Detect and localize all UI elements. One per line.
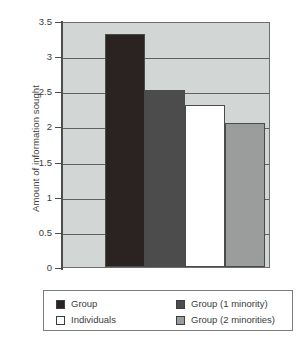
y-axis-tick-mark [55, 92, 62, 93]
y-axis-tick-mark [55, 127, 62, 128]
legend-item: Group [56, 297, 97, 311]
chart-legend: GroupIndividualsGroup (1 minority)Group … [43, 290, 293, 331]
y-axis-tick-label: 1.5 [39, 158, 52, 168]
plot-area [62, 22, 270, 268]
gridline [63, 58, 269, 59]
bar [185, 105, 225, 267]
bar [105, 34, 145, 267]
y-axis-title: Amount of information sought [30, 39, 41, 259]
legend-swatch [56, 300, 65, 309]
y-axis-tick-label: 2 [47, 122, 52, 132]
legend-label: Group (1 minority) [191, 299, 268, 309]
y-axis-tick-label: 0 [47, 263, 52, 273]
legend-item: Group (2 minorities) [176, 313, 275, 327]
legend-swatch [176, 300, 185, 309]
y-axis-tick-label: 3 [47, 52, 52, 62]
y-axis-tick-mark [55, 268, 62, 269]
y-axis-tick-mark [55, 233, 62, 234]
legend-label: Group (2 minorities) [191, 315, 275, 325]
y-axis-tick-mark [55, 57, 62, 58]
y-axis-tick-label: 3.5 [39, 17, 52, 27]
legend-label: Group [71, 299, 97, 309]
legend-item: Group (1 minority) [176, 297, 268, 311]
y-axis-tick-mark [55, 163, 62, 164]
y-axis-tick-label: 1 [47, 193, 52, 203]
legend-swatch [56, 316, 65, 325]
bar [145, 90, 185, 267]
legend-item: Individuals [56, 313, 116, 327]
y-axis-tick-mark [55, 22, 62, 23]
y-axis-tick-mark [55, 198, 62, 199]
legend-label: Individuals [71, 315, 116, 325]
bar-chart-figure: Amount of information sought 00.511.522.… [0, 0, 305, 338]
bar [225, 123, 265, 267]
y-axis-tick-label: 2.5 [39, 87, 52, 97]
y-axis-tick-label: 0.5 [39, 228, 52, 238]
legend-swatch [176, 316, 185, 325]
